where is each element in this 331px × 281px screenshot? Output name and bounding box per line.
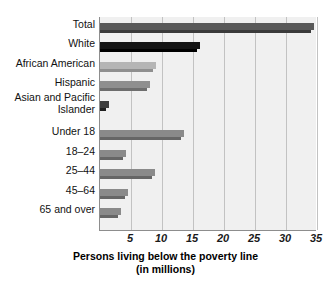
bar-5 <box>100 130 184 140</box>
x-tick-label-5: 5 <box>127 232 133 244</box>
gridline-35 <box>317 17 318 230</box>
bar-shadow <box>100 108 106 111</box>
bars-layer <box>100 17 316 230</box>
bar-fill <box>100 81 150 88</box>
bar-shadow <box>100 137 181 140</box>
x-tick-label-15: 15 <box>186 232 198 244</box>
category-label-9: 65 and over <box>0 204 95 216</box>
category-label-2: African American <box>0 58 95 70</box>
bar-shadow <box>100 49 197 52</box>
x-tick-label-25: 25 <box>248 232 260 244</box>
bar-fill <box>100 208 121 215</box>
bar-fill <box>100 150 126 157</box>
category-label-7: 25–44 <box>0 165 95 177</box>
category-label-5: Under 18 <box>0 126 95 138</box>
bar-shadow <box>100 69 153 72</box>
bar-fill <box>100 101 109 108</box>
category-label-3: Hispanic <box>0 77 95 89</box>
value-axis-tick-labels: 5101520253035 <box>99 232 316 248</box>
bar-6 <box>100 150 126 160</box>
category-label-1: White <box>0 38 95 50</box>
category-label-0: Total <box>0 19 95 31</box>
bar-7 <box>100 169 155 179</box>
category-label-8: 45–64 <box>0 185 95 197</box>
axis-title-line-1: Persons living below the poverty line <box>73 250 258 262</box>
bar-2 <box>100 62 156 72</box>
axis-title-line-2: (in millions) <box>0 263 331 276</box>
bar-fill <box>100 42 200 49</box>
bar-fill <box>100 23 314 30</box>
bar-shadow <box>100 196 125 199</box>
x-tick-label-30: 30 <box>279 232 291 244</box>
bar-fill <box>100 130 184 137</box>
bar-shadow <box>100 215 118 218</box>
bar-fill <box>100 189 128 196</box>
x-tick-label-10: 10 <box>155 232 167 244</box>
poverty-bar-chart: TotalWhiteAfrican AmericanHispanicAsian … <box>0 0 331 281</box>
bar-shadow <box>100 157 123 160</box>
axis-title: Persons living below the poverty line (i… <box>0 250 331 276</box>
category-label-6: 18–24 <box>0 146 95 158</box>
bar-shadow <box>100 30 311 33</box>
bar-shadow <box>100 176 152 179</box>
bar-fill <box>100 62 156 69</box>
bar-9 <box>100 208 121 218</box>
bar-3 <box>100 81 150 91</box>
bar-1 <box>100 42 200 52</box>
x-tick-label-35: 35 <box>310 232 322 244</box>
bar-0 <box>100 23 314 33</box>
category-axis-labels: TotalWhiteAfrican AmericanHispanicAsian … <box>0 17 95 231</box>
category-label-4: Asian and Pacific Islander <box>0 92 95 115</box>
bar-8 <box>100 189 128 199</box>
bar-shadow <box>100 88 147 91</box>
bar-4 <box>100 101 109 111</box>
plot-area <box>99 17 316 231</box>
bar-fill <box>100 169 155 176</box>
x-tick-label-20: 20 <box>217 232 229 244</box>
